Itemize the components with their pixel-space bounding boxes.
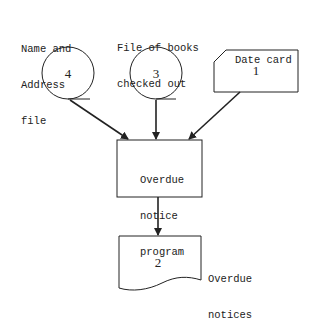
label-line: Address <box>21 79 71 91</box>
label-line: File of books <box>117 42 199 54</box>
label-line: Overdue <box>208 273 252 285</box>
label-line: checked out <box>117 78 199 90</box>
label-line: Name and <box>21 43 71 55</box>
tape-4-label: Name and Address file <box>21 19 71 151</box>
label-line: Date card <box>235 54 292 66</box>
label-line: notices <box>208 309 252 321</box>
card-1-label: Date card <box>235 30 292 90</box>
label-line: notice <box>140 210 184 222</box>
label-line: file <box>21 115 71 127</box>
label-line: Overdue <box>140 174 184 186</box>
label-line: program <box>140 246 184 258</box>
document-2-label: Overdue notices <box>208 249 252 322</box>
process-label: Overdue notice program <box>140 150 184 282</box>
tape-3-label: File of books checked out <box>117 18 199 114</box>
